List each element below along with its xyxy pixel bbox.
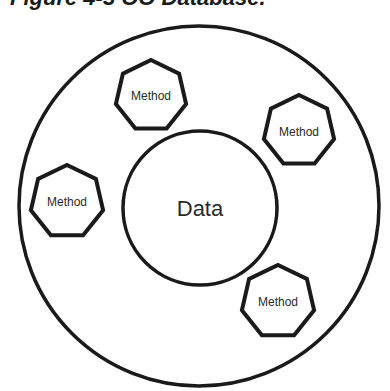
method-label: Method [279,125,319,139]
data-label: Data [177,196,224,221]
oo-database-diagram: Data Method Method Method Method [0,0,390,391]
method-label: Method [47,195,87,209]
method-label: Method [258,295,298,309]
method-node: Method [264,95,334,163]
method-node: Method [242,265,314,335]
method-label: Method [131,89,171,103]
method-node: Method [31,165,103,235]
method-node: Method [116,60,186,128]
